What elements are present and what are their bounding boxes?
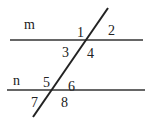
label-n: n (13, 73, 20, 88)
angle-2: 2 (108, 23, 115, 38)
parallel-lines-diagram: m n 1 2 3 4 5 6 7 8 (0, 0, 151, 126)
angle-1: 1 (77, 25, 84, 40)
angle-5: 5 (43, 75, 50, 90)
transversal-line (33, 8, 108, 117)
label-m: m (24, 17, 35, 32)
angle-3: 3 (62, 45, 69, 60)
angle-4: 4 (87, 46, 94, 61)
angle-8: 8 (61, 95, 68, 110)
angle-6: 6 (68, 79, 75, 94)
angle-7: 7 (31, 95, 38, 110)
